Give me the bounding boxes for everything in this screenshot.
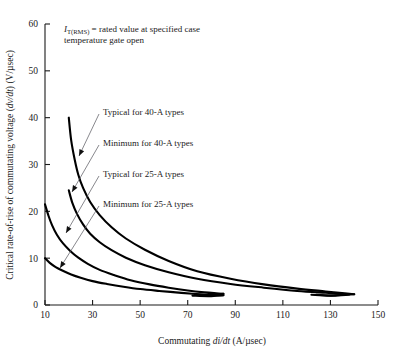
series-label-1: Minimum for 40-A types: [103, 138, 194, 148]
y-tick-label-20: 20: [29, 207, 39, 217]
series-label-0: Typical for 40-A types: [103, 107, 185, 117]
leader-lines: [60, 114, 99, 268]
leader-arrowhead-2: [66, 226, 72, 233]
x-tick-label-150: 150: [371, 310, 386, 320]
x-tick-label-90: 90: [231, 310, 241, 320]
axes: [45, 24, 378, 305]
curve-3: [45, 258, 223, 295]
y-axis-tick-labels: 0102030405060: [29, 19, 39, 310]
x-axis-ticks: [45, 300, 378, 305]
series-label-3: Minimum for 25-A types: [103, 199, 194, 209]
data-curves: [45, 118, 354, 296]
series-labels: Typical for 40-A typesMinimum for 40-A t…: [103, 107, 194, 209]
chart-canvas: 0102030405060 1030507090110130150 Typica…: [0, 0, 396, 355]
leader-arrowhead-3: [60, 261, 66, 268]
y-tick-label-60: 60: [29, 19, 39, 29]
y-axis-title: Critical rate-of-rise of commutating vol…: [5, 50, 16, 280]
chart-figure: 0102030405060 1030507090110130150 Typica…: [0, 0, 396, 355]
x-tick-label-130: 130: [323, 310, 338, 320]
leader-arrowhead-1: [72, 185, 77, 192]
note-line-2: temperature gate open: [64, 35, 144, 45]
x-tick-label-70: 70: [183, 310, 193, 320]
x-axis-title: Commutating di/dt (A/µsec): [158, 336, 266, 347]
y-tick-label-10: 10: [29, 254, 39, 264]
y-tick-label-50: 50: [29, 66, 39, 76]
x-axis-tick-labels: 1030507090110130150: [40, 310, 385, 320]
series-label-2: Typical for 25-A types: [103, 169, 185, 179]
curve-1-endpoint-hook: [311, 294, 349, 295]
curve-3-endpoint-hook: [192, 295, 223, 296]
y-tick-label-30: 30: [29, 160, 39, 170]
y-tick-label-0: 0: [33, 300, 38, 310]
y-tick-label-40: 40: [29, 113, 39, 123]
x-tick-label-110: 110: [276, 310, 290, 320]
rated-value-note: IT(RMS) = rated value at specified case …: [63, 24, 200, 45]
x-tick-label-30: 30: [88, 310, 98, 320]
leader-arrowhead-0: [79, 149, 84, 156]
x-tick-label-50: 50: [135, 310, 145, 320]
x-tick-label-10: 10: [40, 310, 50, 320]
